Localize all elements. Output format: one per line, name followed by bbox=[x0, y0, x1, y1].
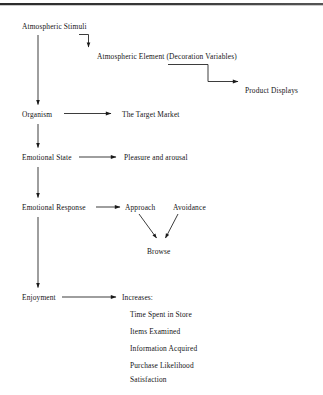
edge-avoidance-to-browse bbox=[166, 214, 179, 238]
list-item: Purchase Likelihood bbox=[130, 361, 194, 370]
list-item: Time Spent in Store bbox=[130, 310, 192, 319]
node-pleasure-and-arousal: Pleasure and arousal bbox=[124, 153, 188, 162]
diagram-canvas: Atmospheric Stimuli Atmospheric Element … bbox=[0, 0, 323, 395]
list-item: Items Examined bbox=[130, 327, 180, 336]
node-atmospheric-element: Atmospheric Element (Decoration Variable… bbox=[97, 52, 237, 61]
node-product-displays: Product Displays bbox=[245, 86, 298, 95]
list-item: Satisfaction bbox=[130, 375, 167, 384]
node-increases: Increases: bbox=[122, 293, 153, 302]
node-atmospheric-stimuli: Atmospheric Stimuli bbox=[22, 22, 87, 31]
edge-stimuli-to-element bbox=[79, 35, 89, 48]
node-approach: Approach bbox=[125, 203, 155, 212]
edge-approach-to-browse bbox=[139, 214, 157, 238]
list-item: Information Acquired bbox=[130, 344, 197, 353]
node-avoidance: Avoidance bbox=[173, 203, 206, 212]
node-emotional-state: Emotional State bbox=[22, 153, 72, 162]
edge-element-to-displays bbox=[168, 65, 238, 82]
node-browse: Browse bbox=[147, 247, 170, 256]
node-enjoyment: Enjoyment bbox=[22, 293, 56, 302]
node-emotional-response: Emotional Response bbox=[22, 203, 86, 212]
node-organism: Organism bbox=[22, 110, 52, 119]
node-target-market: The Target Market bbox=[122, 110, 180, 119]
top-horizontal-rule-shadow bbox=[0, 5, 323, 6]
